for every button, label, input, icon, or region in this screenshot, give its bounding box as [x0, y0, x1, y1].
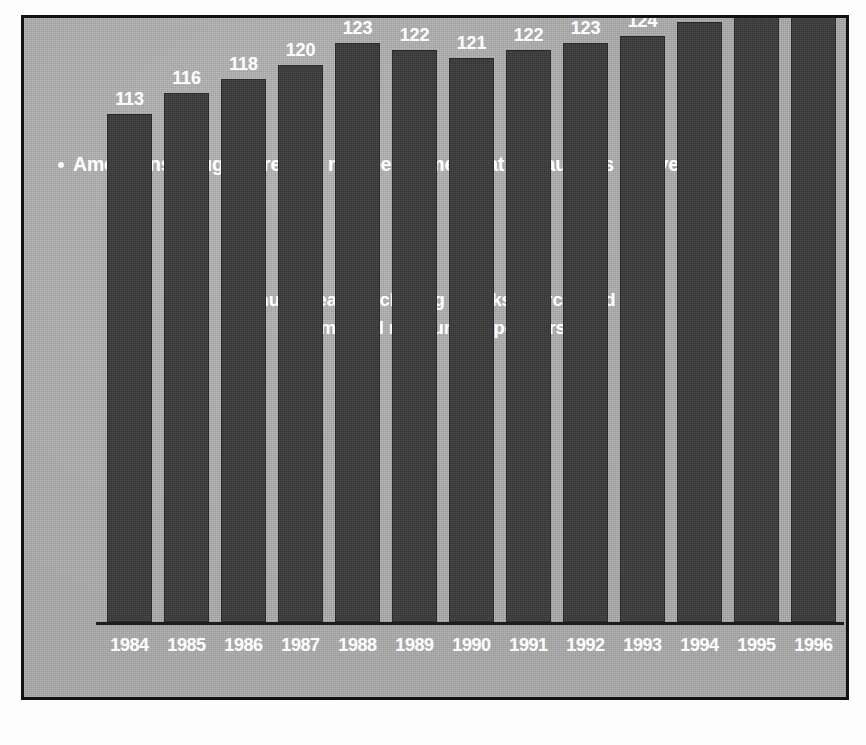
bar-group: 122: [392, 18, 437, 622]
bar: [734, 15, 779, 622]
x-axis-tick-label: 1996: [794, 635, 832, 656]
x-axis-tick-label: 1985: [167, 635, 205, 656]
bar-group: 120: [278, 18, 323, 622]
bar: [677, 22, 722, 622]
bar-group: 118: [221, 18, 266, 622]
bar-value-label: 121: [457, 33, 486, 54]
x-axis-tick-label: 1992: [566, 635, 604, 656]
bar-value-label: 123: [571, 18, 600, 39]
bar: [563, 43, 608, 622]
bar: [791, 15, 836, 622]
bar-chart-plot: 113116118120123122121122123124126130131 …: [24, 18, 846, 697]
bar-group: 123: [563, 18, 608, 622]
bar: [506, 50, 551, 622]
bar-group: 113: [107, 18, 152, 622]
x-axis-tick-label: 1987: [281, 635, 319, 656]
x-axis-tick-label: 1993: [623, 635, 661, 656]
x-axis-tick-label: 1984: [110, 635, 148, 656]
bar-group: 124: [620, 18, 665, 622]
bar-value-label: 124: [628, 15, 657, 32]
bar: [221, 79, 266, 622]
bar-value-label: 113: [115, 89, 143, 110]
slide: Americans bought a record number of meal…: [21, 15, 849, 700]
bar-value-label: 122: [514, 25, 543, 46]
x-axis-tick-label: 1991: [509, 635, 547, 656]
bar-value-label: 123: [343, 18, 372, 39]
bar-value-label: 126: [685, 15, 714, 18]
bar-group: 130: [734, 18, 779, 622]
bar-value-label: 118: [229, 54, 257, 75]
x-axis-tick-label: 1989: [395, 635, 433, 656]
page-canvas: Americans bought a record number of meal…: [0, 0, 866, 745]
x-axis-tick-label: 1995: [737, 635, 775, 656]
bar-group: 126: [677, 18, 722, 622]
bar-value-label: 120: [286, 40, 315, 61]
bar-group: 121: [449, 18, 494, 622]
x-axis-tick-label: 1994: [680, 635, 718, 656]
x-axis-tick-label: 1986: [224, 635, 262, 656]
bar-group: 131: [791, 18, 836, 622]
bar: [164, 93, 209, 622]
x-axis-baseline: [96, 622, 844, 625]
x-axis-tick-label: 1990: [452, 635, 490, 656]
x-axis-tick-label: 1988: [338, 635, 376, 656]
bar: [620, 36, 665, 622]
bar-value-label: 116: [172, 68, 200, 89]
bar: [107, 114, 152, 622]
bar-group: 116: [164, 18, 209, 622]
bar: [278, 65, 323, 622]
bar-group: 122: [506, 18, 551, 622]
bar: [392, 50, 437, 622]
bar-group: 123: [335, 18, 380, 622]
bar: [449, 58, 494, 622]
bar: [335, 43, 380, 622]
bar-value-label: 122: [400, 25, 429, 46]
